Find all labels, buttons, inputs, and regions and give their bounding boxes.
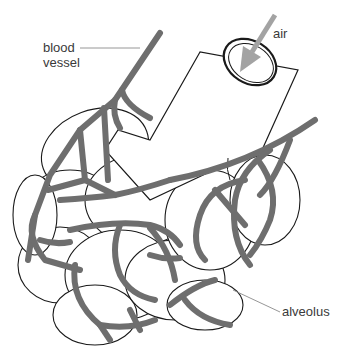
alveolus-label: alveolus (282, 304, 330, 319)
blood-vessel-label: blood vessel (43, 40, 80, 70)
air-label: air (273, 26, 287, 41)
blood-vessel-label-line2: vessel (43, 55, 80, 70)
blood-vessel-label-line1: blood (43, 40, 80, 55)
